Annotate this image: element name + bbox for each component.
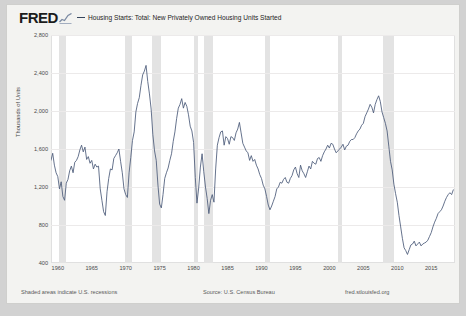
x-tick-label: 1985 [221, 265, 233, 272]
y-tick-label: 2,800 [8, 32, 48, 38]
x-tick-label: 2000 [323, 265, 335, 272]
fred-chart-screenshot: FRED Housing Starts: Total: New Privatel… [0, 0, 466, 316]
series-polyline [51, 65, 453, 254]
legend-color-swatch [77, 17, 85, 18]
data-line [51, 35, 455, 263]
x-tick-label: 1960 [52, 265, 64, 272]
y-tick-label: 400 [8, 260, 48, 266]
chart-footer: Shaded areas indicate U.S. recessions So… [7, 289, 461, 303]
chart-header: FRED Housing Starts: Total: New Privatel… [7, 5, 459, 29]
footer-url[interactable]: fred.stlouisfed.org [345, 289, 389, 296]
legend-label: Housing Starts: Total: New Privately Own… [88, 14, 281, 21]
y-tick-label: 2,000 [8, 108, 48, 114]
y-axis-ticks: 2,8002,4002,0001,6001,200800400 [7, 35, 48, 263]
chart-card: FRED Housing Starts: Total: New Privatel… [6, 4, 460, 304]
fred-logo[interactable]: FRED [19, 10, 58, 25]
x-tick-label: 2015 [425, 265, 437, 272]
x-tick-label: 1975 [153, 265, 165, 272]
y-tick-label: 2,400 [8, 70, 48, 76]
x-tick-label: 2005 [357, 265, 369, 272]
y-tick-label: 1,600 [8, 146, 48, 152]
y-tick-label: 1,200 [8, 184, 48, 190]
line-chart-icon [59, 13, 72, 24]
x-tick-label: 2010 [391, 265, 403, 272]
plot-area [51, 35, 455, 263]
legend-entry[interactable]: Housing Starts: Total: New Privately Own… [77, 14, 281, 21]
x-tick-label: 1990 [255, 265, 267, 272]
x-tick-label: 1995 [289, 265, 301, 272]
x-tick-label: 1980 [187, 265, 199, 272]
y-tick-label: 800 [8, 222, 48, 228]
x-tick-label: 1965 [86, 265, 98, 272]
x-tick-label: 1970 [119, 265, 131, 272]
footer-source: Source: U.S. Census Bureau [203, 289, 275, 296]
footer-recession-note: Shaded areas indicate U.S. recessions [21, 289, 117, 296]
x-axis-ticks: 1960196519701975198019851990199520002005… [51, 265, 455, 277]
